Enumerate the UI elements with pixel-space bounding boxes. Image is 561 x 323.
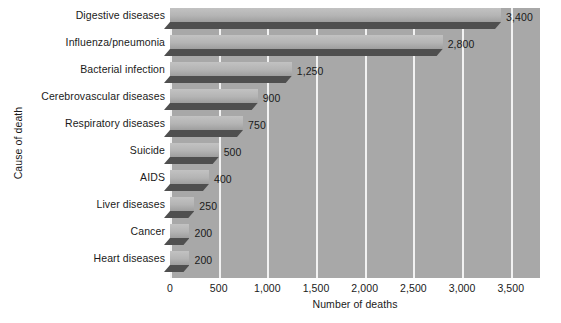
bar-value-label: 200 [194,227,212,239]
bar-3d-shadow [164,22,501,29]
category-label: Digestive diseases [76,9,165,21]
bar-row: 500 [170,143,540,168]
value-axis-tick-labels: 05001,0001,5002,0002,5003,0003,500 [170,282,540,296]
bar-value-label: 250 [199,200,217,212]
bar [170,8,501,22]
bar-value-label: 1,250 [297,65,324,77]
bar-3d-shadow [164,265,189,272]
category-label: AIDS [140,171,165,183]
bar-row: 2,800 [170,35,540,60]
y-axis-title: Cause of death [12,107,24,180]
bar-row: 200 [170,224,540,249]
bar-value-label: 200 [194,254,212,266]
bar-row: 250 [170,197,540,222]
category-label: Influenza/pneumonia [66,36,165,48]
bar [170,89,258,103]
category-label: Bacterial infection [80,63,165,75]
bar-3d-shadow [164,211,194,218]
bar [170,197,194,211]
category-label: Liver diseases [96,198,165,210]
x-tick-label: 3,500 [497,282,524,294]
bar-3d-shadow [164,103,258,110]
bar-value-label: 900 [263,92,281,104]
bar [170,224,189,238]
bar-3d-shadow [164,130,243,137]
category-axis-labels: Digestive diseasesInfluenza/pneumoniaBac… [0,8,165,278]
x-tick-label: 500 [210,282,228,294]
x-axis-title: Number of deaths [170,298,540,310]
bar-row: 400 [170,170,540,195]
x-tick-label: 1,500 [303,282,330,294]
x-tick-label: 2,000 [351,282,378,294]
category-label: Cancer [131,225,165,237]
bar-3d-shadow [164,238,189,245]
category-label: Respiratory diseases [65,117,165,129]
bar-value-label: 2,800 [448,38,475,50]
x-tick-label: 3,000 [449,282,476,294]
bar-3d-shadow [164,157,219,164]
bar [170,170,209,184]
bar-3d-shadow [164,184,209,191]
bar [170,251,189,265]
category-label: Cerebrovascular diseases [41,90,165,102]
bar [170,35,443,49]
x-tick-label: 2,500 [400,282,427,294]
bar-value-label: 750 [248,119,266,131]
bar [170,116,243,130]
category-label: Suicide [130,144,165,156]
bar-chart-figure: 3,4002,8001,250900750500400250200200 Dig… [0,0,561,323]
bar-value-label: 400 [214,173,232,185]
bar-row: 3,400 [170,8,540,33]
x-tick-label: 0 [167,282,173,294]
bar-row: 200 [170,251,540,276]
bar-row: 900 [170,89,540,114]
bar [170,143,219,157]
bar-row: 1,250 [170,62,540,87]
bar-value-label: 3,400 [506,11,533,23]
bar-3d-shadow [164,76,292,83]
bar-value-label: 500 [224,146,242,158]
bar-3d-shadow [164,49,443,56]
bar-row: 750 [170,116,540,141]
bar [170,62,292,76]
x-tick-label: 1,000 [254,282,281,294]
plot-area: 3,4002,8001,250900750500400250200200 [170,8,540,278]
category-label: Heart diseases [94,252,165,264]
